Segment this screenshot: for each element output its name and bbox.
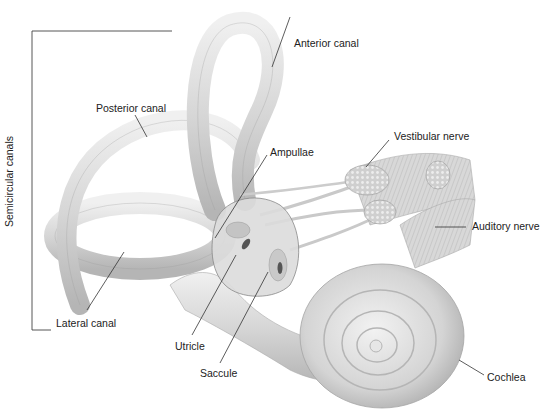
vestibular-nerve-label: Vestibular nerve — [394, 131, 469, 142]
auditory-nerve-label: Auditory nerve — [472, 221, 540, 232]
lateral-canal-shape — [55, 203, 225, 269]
leader-cochlea — [459, 360, 484, 375]
ampullae-label: Ampullae — [270, 147, 314, 158]
utricle-label: Utricle — [175, 341, 205, 352]
lateral-canal-label: Lateral canal — [56, 318, 116, 329]
utricle-saccule-sac — [212, 198, 299, 296]
semicircular-canals-bracket — [32, 31, 172, 330]
semicircular-canals-label: Semicircular canals — [4, 136, 15, 227]
anterior-canal-label: Anterior canal — [294, 38, 359, 49]
saccule-label: Saccule — [200, 368, 237, 379]
posterior-canal-label: Posterior canal — [96, 103, 166, 114]
inner-ear-diagram: Semicircular canals Anterior canal Poste… — [0, 0, 559, 417]
cochlea-shape — [300, 264, 464, 408]
cochlea-label: Cochlea — [487, 372, 526, 383]
inner-ear-illustration — [0, 0, 559, 417]
